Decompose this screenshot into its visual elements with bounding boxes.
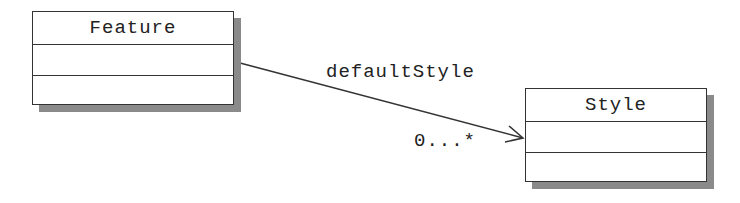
operations-compartment: [33, 76, 233, 104]
attributes-compartment: [526, 122, 706, 153]
attributes-compartment: [33, 45, 233, 76]
class-name: Style: [526, 89, 706, 122]
class-style[interactable]: Style: [525, 88, 707, 182]
class-name: Feature: [33, 12, 233, 45]
class-feature[interactable]: Feature: [32, 11, 234, 105]
operations-compartment: [526, 153, 706, 181]
multiplicity-label: 0...*: [414, 130, 476, 152]
association-role-label: defaultStyle: [326, 61, 475, 83]
